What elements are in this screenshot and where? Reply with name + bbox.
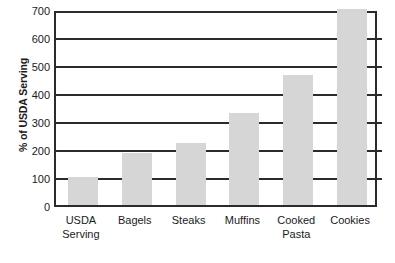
category-label-line1: Cookies — [330, 214, 370, 226]
category-label-line2: Serving — [54, 227, 108, 241]
x-axis-category-label: USDAServing — [54, 213, 108, 241]
x-axis-category-label: Muffins — [216, 213, 270, 227]
y-axis-right-ticks — [0, 11, 395, 207]
category-label-line1: Bagels — [118, 214, 152, 226]
y-axis-tick-mark — [377, 178, 382, 180]
y-axis-tick-mark — [377, 150, 382, 152]
bar-chart-figure: Larger Portions other than pure liquids,… — [0, 0, 395, 263]
category-label-line2: Pasta — [269, 227, 323, 241]
x-axis-category-label: CookedPasta — [269, 213, 323, 241]
x-axis-category-label: Steaks — [162, 213, 216, 227]
category-label-line1: Steaks — [172, 214, 206, 226]
y-axis-tick-mark — [377, 94, 382, 96]
category-label-line1: USDA — [66, 214, 97, 226]
category-label-line1: Muffins — [225, 214, 260, 226]
y-axis-tick-mark — [377, 38, 382, 40]
x-axis-category-label: Bagels — [108, 213, 162, 227]
x-axis-category-label: Cookies — [323, 213, 377, 227]
y-axis-tick-mark — [377, 122, 382, 124]
y-axis-tick-mark — [377, 66, 382, 68]
category-label-line1: Cooked — [277, 214, 315, 226]
x-axis-category-labels: USDAServingBagelsSteaksMuffinsCookedPast… — [54, 213, 377, 259]
